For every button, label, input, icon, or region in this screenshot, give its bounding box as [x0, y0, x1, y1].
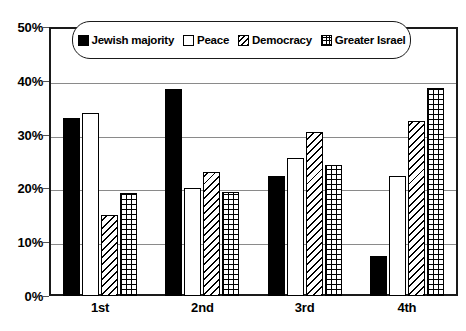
- legend-item: Jewish majority: [78, 34, 175, 46]
- legend-swatch-icon: [78, 35, 89, 46]
- bar-group: [151, 27, 253, 296]
- legend-item-label: Jewish majority: [92, 34, 175, 46]
- legend-item: Democracy: [238, 34, 312, 46]
- y-axis-tick-mark: [43, 242, 49, 243]
- x-axis-tick-label: 4th: [356, 300, 458, 315]
- bar: [408, 121, 425, 296]
- bar: [222, 192, 239, 296]
- y-axis-tick-label: 20%: [18, 182, 43, 195]
- legend-item-label: Peace: [197, 34, 229, 46]
- bar: [325, 165, 342, 296]
- x-axis: 1st2nd3rd4th: [49, 300, 458, 326]
- bar: [120, 193, 137, 296]
- y-axis-tick-label: 0%: [25, 290, 43, 303]
- bar-group: [356, 27, 458, 296]
- y-axis: 0%10%20%30%40%50%: [0, 0, 50, 331]
- bar-group: [254, 27, 356, 296]
- bar: [389, 176, 406, 297]
- bar: [82, 113, 99, 296]
- bar-group: [49, 27, 151, 296]
- legend-swatch-icon: [183, 35, 194, 46]
- y-axis-tick-mark: [43, 27, 49, 28]
- x-axis-tick-label: 1st: [49, 300, 151, 315]
- y-axis-tick-mark: [43, 296, 49, 297]
- legend-item: Peace: [183, 34, 229, 46]
- y-axis-tick-mark: [43, 188, 49, 189]
- bar: [427, 88, 444, 296]
- bar: [203, 172, 220, 296]
- bar: [268, 176, 285, 297]
- bar: [63, 118, 80, 296]
- bar: [165, 89, 182, 296]
- y-axis-tick-label: 40%: [18, 75, 43, 88]
- y-axis-tick-label: 30%: [18, 129, 43, 142]
- x-axis-tick-label: 3rd: [254, 300, 356, 315]
- y-axis-tick-mark: [43, 135, 49, 136]
- legend-item-label: Greater Israel: [335, 34, 406, 46]
- bar: [306, 132, 323, 296]
- chart-legend: Jewish majorityPeaceDemocracyGreater Isr…: [72, 21, 411, 59]
- legend-swatch-icon: [238, 35, 249, 46]
- y-axis-tick-label: 10%: [18, 236, 43, 249]
- y-axis-tick-label: 50%: [18, 21, 43, 34]
- legend-swatch-icon: [321, 35, 332, 46]
- bar: [370, 256, 387, 296]
- legend-item-label: Democracy: [252, 34, 312, 46]
- legend-item: Greater Israel: [321, 34, 406, 46]
- bar: [287, 158, 304, 296]
- bar: [101, 215, 118, 296]
- bar: [184, 188, 201, 296]
- x-axis-tick-label: 2nd: [151, 300, 253, 315]
- bars-layer: [49, 27, 458, 296]
- bar-chart: 0%10%20%30%40%50% 1st2nd3rd4th Jewish ma…: [0, 0, 466, 331]
- y-axis-tick-mark: [43, 81, 49, 82]
